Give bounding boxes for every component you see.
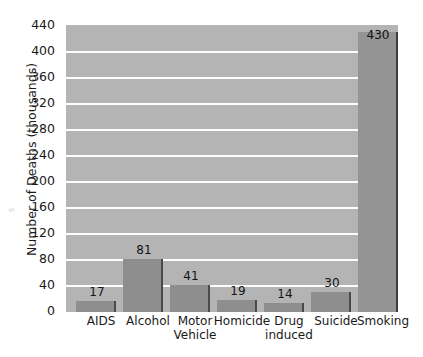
- y-tick-label: 200: [31, 175, 55, 187]
- y-tick-label: 120: [31, 227, 55, 239]
- y-tick-label: 280: [31, 123, 55, 135]
- x-axis: AIDS Alcohol Motor Vehicle Homicide Drug…: [66, 314, 398, 356]
- x-tick-line2: induced: [254, 328, 324, 342]
- x-tick-line1: AIDS: [87, 314, 116, 328]
- bar-homicide[interactable]: [217, 300, 257, 312]
- y-tick-label: 320: [31, 97, 55, 109]
- y-tick-label: 0: [47, 305, 55, 317]
- gridline: [66, 207, 398, 209]
- gridline: [66, 77, 398, 79]
- bar-value-label-motor-vehicle: 41: [170, 270, 212, 283]
- bar-value-label-aids: 17: [76, 286, 118, 299]
- y-axis: Number of Deaths (thousands) 440 400 360…: [0, 0, 62, 357]
- bar-value-label-suicide: 30: [311, 277, 353, 290]
- y-tick-label: 40: [39, 279, 55, 291]
- y-tick-label: 240: [31, 149, 55, 161]
- gridline: [66, 181, 398, 183]
- gridline: [66, 233, 398, 235]
- y-tick-label: 160: [31, 201, 55, 213]
- bar-alcohol[interactable]: [123, 259, 163, 312]
- y-tick-label: 440: [31, 19, 55, 31]
- gridline: [66, 103, 398, 105]
- x-tick-line2: Vehicle: [160, 328, 230, 342]
- bar-chart-figure: s Number of Deaths (thousands) 440 400 3…: [0, 0, 423, 357]
- bar-value-label-drug-induced: 14: [264, 288, 306, 301]
- bar-aids[interactable]: [76, 301, 116, 312]
- x-tick-label-smoking: Smoking: [348, 314, 418, 328]
- bar-drug-induced[interactable]: [264, 303, 304, 312]
- gridline: [66, 129, 398, 131]
- bar-suicide[interactable]: [311, 292, 351, 312]
- bar-value-label-alcohol: 81: [123, 244, 165, 257]
- y-tick-label: 80: [39, 253, 55, 265]
- bar-value-label-homicide: 19: [217, 285, 259, 298]
- y-tick-label: 400: [31, 45, 55, 57]
- y-tick-label: 360: [31, 71, 55, 83]
- gridline: [66, 155, 398, 157]
- gridline: [66, 51, 398, 53]
- gridline: [66, 259, 398, 261]
- x-tick-line1: Smoking: [357, 314, 409, 328]
- x-tick-line1: Drug: [274, 314, 303, 328]
- plot-area: 17 81 41 19 14 30 430: [66, 25, 398, 312]
- bar-motor-vehicle[interactable]: [170, 285, 210, 312]
- bar-smoking[interactable]: [358, 32, 398, 312]
- bar-value-label-smoking: 430: [358, 29, 398, 42]
